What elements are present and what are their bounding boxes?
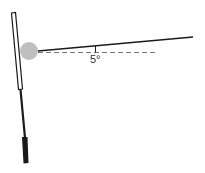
pole-handle	[22, 137, 29, 164]
angle-label: 5°	[90, 53, 101, 65]
angled-line	[38, 37, 193, 51]
pole-shaft	[21, 90, 26, 139]
diagram-canvas: 5°	[0, 0, 205, 173]
ball	[20, 42, 38, 60]
